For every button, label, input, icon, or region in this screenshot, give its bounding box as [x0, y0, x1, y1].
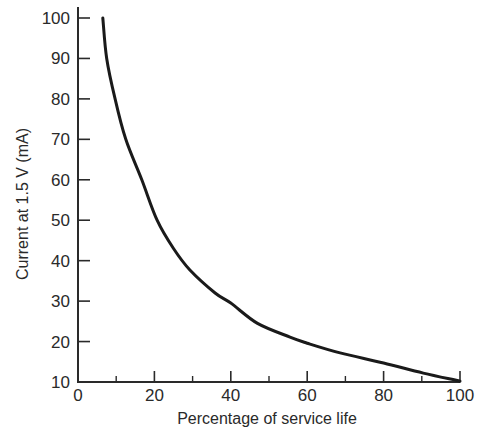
y-tick-label: 20	[51, 333, 70, 352]
y-tick-label: 60	[51, 171, 70, 190]
x-tick-label: 60	[298, 386, 317, 405]
y-axis-ticks: 102030405060708090100	[42, 9, 90, 392]
y-tick-label: 40	[51, 252, 70, 271]
x-tick-label: 0	[73, 386, 82, 405]
y-tick-label: 90	[51, 49, 70, 68]
y-axis-label: Current at 1.5 V (mA)	[14, 128, 31, 280]
x-tick-label: 20	[145, 386, 164, 405]
chart: 102030405060708090100 020406080100 Curre…	[0, 0, 493, 437]
y-tick-label: 70	[51, 130, 70, 149]
y-tick-label: 80	[51, 90, 70, 109]
x-tick-label: 40	[221, 386, 240, 405]
axes	[77, 7, 460, 382]
y-tick-label: 10	[51, 373, 70, 392]
x-tick-label: 80	[374, 386, 393, 405]
x-axis-ticks: 020406080100	[73, 371, 474, 405]
x-axis-label: Percentage of service life	[177, 410, 357, 427]
y-tick-label: 50	[51, 211, 70, 230]
data-line	[103, 18, 460, 381]
y-tick-label: 30	[51, 292, 70, 311]
x-tick-label: 100	[446, 386, 474, 405]
y-tick-label: 100	[42, 9, 70, 28]
